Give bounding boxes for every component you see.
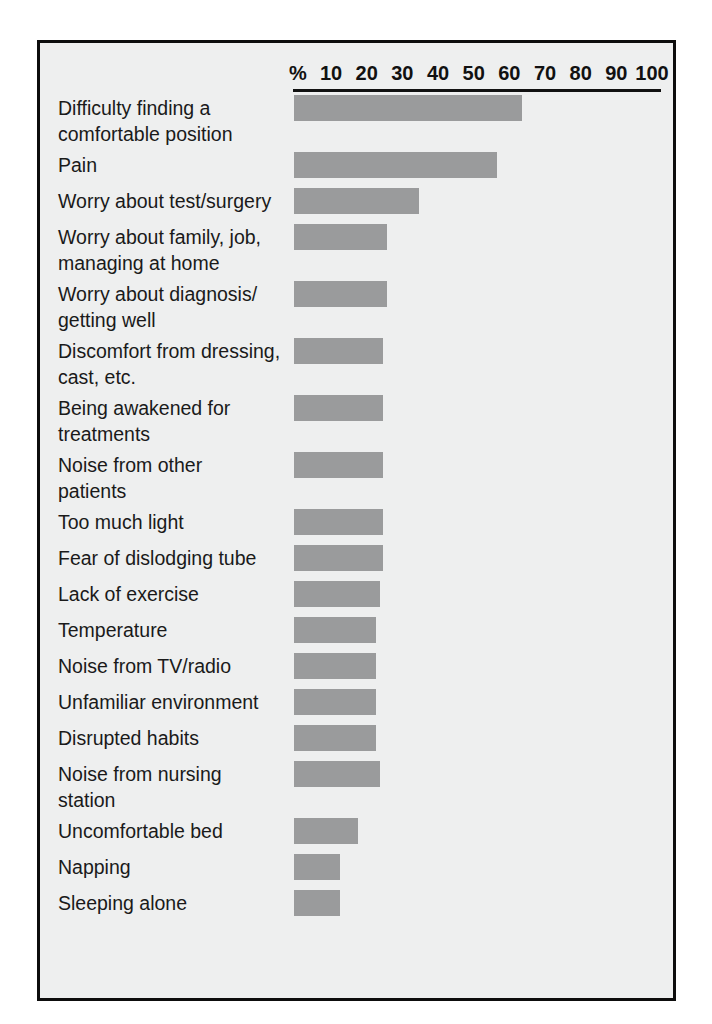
bar-row-label: Sleeping alone: [58, 890, 288, 916]
bar-track: [294, 581, 673, 617]
bar-row: Noise from TV/radio: [40, 653, 673, 689]
bar-track: [294, 818, 673, 854]
bar-row-label: Pain: [58, 152, 288, 178]
bar-row: Worry about family, job, managing at hom…: [40, 224, 673, 281]
bar-row: Too much light: [40, 509, 673, 545]
bar-row-label: Uncomfortable bed: [58, 818, 288, 844]
bar-row-label: Noise from nursing station: [58, 761, 288, 813]
bar-track: [294, 689, 673, 725]
bar-track: [294, 95, 673, 152]
axis-tick-60: 60: [498, 61, 520, 85]
axis-percent-symbol: %: [289, 61, 307, 85]
bar-row-label: Worry about diagnosis/ getting well: [58, 281, 288, 333]
bar-row: Temperature: [40, 617, 673, 653]
bar-row-label: Noise from other patients: [58, 452, 288, 504]
bar-row-label: Lack of exercise: [58, 581, 288, 607]
bar-row: Discomfort from dressing, cast, etc.: [40, 338, 673, 395]
bar: [294, 452, 383, 478]
bar-row-label: Too much light: [58, 509, 288, 535]
bar-track: [294, 152, 673, 188]
bar: [294, 545, 383, 571]
bar: [294, 95, 522, 121]
axis-tick-50: 50: [463, 61, 485, 85]
bar-row: Disrupted habits: [40, 725, 673, 761]
bar: [294, 818, 358, 844]
bar-track: [294, 761, 673, 818]
bar: [294, 188, 419, 214]
bar-row: Noise from other patients: [40, 452, 673, 509]
bar-row-label: Napping: [58, 854, 288, 880]
axis-tick-80: 80: [570, 61, 592, 85]
bar-track: [294, 395, 673, 452]
bar-row: Worry about diagnosis/ getting well: [40, 281, 673, 338]
bar-row: Being awakened for treatments: [40, 395, 673, 452]
bar: [294, 509, 383, 535]
bar-track: [294, 725, 673, 761]
axis-tick-100: 100: [635, 61, 668, 85]
bar: [294, 854, 340, 880]
bar-row: Lack of exercise: [40, 581, 673, 617]
bar: [294, 890, 340, 916]
bar-row: Napping: [40, 854, 673, 890]
bar: [294, 725, 376, 751]
bar-row-label: Difficulty finding a comfortable positio…: [58, 95, 288, 147]
bar-track: [294, 188, 673, 224]
bar: [294, 653, 376, 679]
bar-track: [294, 452, 673, 509]
bar: [294, 689, 376, 715]
bar-row-label: Discomfort from dressing, cast, etc.: [58, 338, 288, 390]
bar-track: [294, 281, 673, 338]
bar-row: Unfamiliar environment: [40, 689, 673, 725]
bar-row: Noise from nursing station: [40, 761, 673, 818]
x-axis-rule: [293, 89, 661, 92]
bar-row-label: Disrupted habits: [58, 725, 288, 751]
bar-row-label: Unfamiliar environment: [58, 689, 288, 715]
bar-row: Fear of dislodging tube: [40, 545, 673, 581]
bar-row-label: Fear of dislodging tube: [58, 545, 288, 571]
axis-tick-70: 70: [534, 61, 556, 85]
bar: [294, 581, 380, 607]
bar-rows: Difficulty finding a comfortable positio…: [40, 95, 673, 926]
chart-figure: %102030405060708090100 Difficulty findin…: [37, 40, 676, 1001]
bar-row-label: Worry about family, job, managing at hom…: [58, 224, 288, 276]
bar-track: [294, 338, 673, 395]
bar: [294, 224, 387, 250]
bar-row-label: Being awakened for treatments: [58, 395, 288, 447]
bar-track: [294, 854, 673, 890]
bar: [294, 761, 380, 787]
bar-track: [294, 653, 673, 689]
bar: [294, 395, 383, 421]
bar: [294, 617, 376, 643]
bar-track: [294, 890, 673, 926]
axis-tick-40: 40: [427, 61, 449, 85]
bar-track: [294, 509, 673, 545]
bar-track: [294, 224, 673, 281]
x-axis-tick-labels: %102030405060708090100: [292, 61, 660, 91]
bar: [294, 152, 497, 178]
chart-plot-area: %102030405060708090100 Difficulty findin…: [40, 43, 673, 998]
bar: [294, 338, 383, 364]
bar-row: Worry about test/surgery: [40, 188, 673, 224]
axis-tick-20: 20: [356, 61, 378, 85]
bar-track: [294, 545, 673, 581]
bar-row: Pain: [40, 152, 673, 188]
bar-track: [294, 617, 673, 653]
bar: [294, 281, 387, 307]
axis-tick-30: 30: [391, 61, 413, 85]
bar-row: Sleeping alone: [40, 890, 673, 926]
bar-row: Difficulty finding a comfortable positio…: [40, 95, 673, 152]
bar-row: Uncomfortable bed: [40, 818, 673, 854]
bar-row-label: Temperature: [58, 617, 288, 643]
axis-tick-90: 90: [605, 61, 627, 85]
bar-row-label: Noise from TV/radio: [58, 653, 288, 679]
bar-row-label: Worry about test/surgery: [58, 188, 288, 214]
axis-tick-10: 10: [320, 61, 342, 85]
